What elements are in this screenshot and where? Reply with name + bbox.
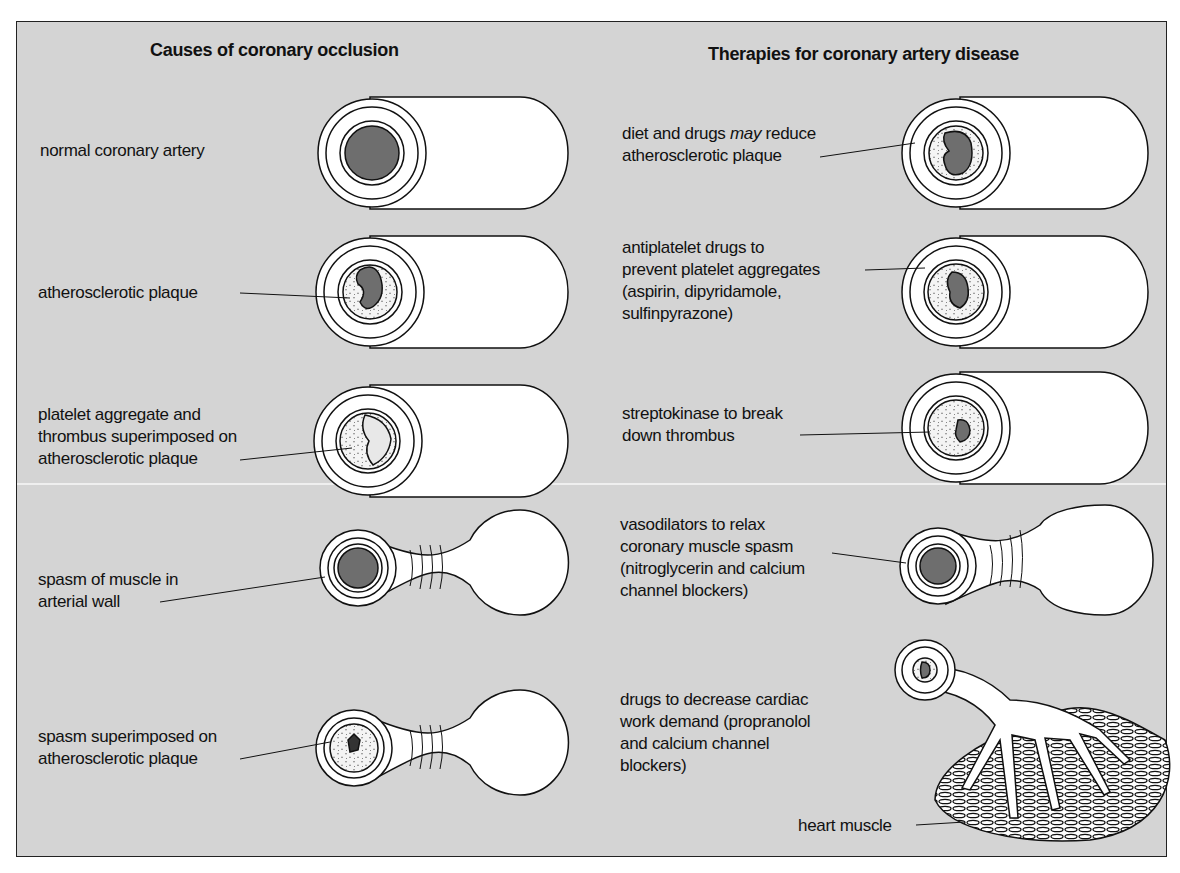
label-platelet-thrombus: platelet aggregate and thrombus superimp…	[38, 404, 237, 470]
label-atherosclerotic-plaque: atherosclerotic plaque	[38, 282, 198, 304]
label-diet-pre: diet and drugs	[622, 124, 730, 143]
label-diet-emphasis: may	[730, 124, 761, 143]
left-column-title: Causes of coronary occlusion	[150, 40, 399, 61]
spasm-artery-illustration	[320, 510, 568, 615]
normal-artery-illustration	[318, 97, 568, 209]
label-spasm-plaque: spasm superimposed on atherosclerotic pl…	[38, 726, 217, 770]
spasm-plaque-artery-illustration	[316, 690, 568, 795]
label-antiplatelet: antiplatelet drugs to prevent platelet a…	[622, 237, 820, 325]
antiplatelet-artery-illustration	[902, 236, 1148, 348]
reduced-plaque-artery-illustration	[902, 97, 1148, 209]
label-muscle-spasm: spasm of muscle in arterial wall	[38, 569, 178, 613]
label-streptokinase: streptokinase to break down thrombus	[622, 403, 783, 447]
label-vasodilators: vasodilators to relax coronary muscle sp…	[620, 514, 805, 602]
label-diet-drugs: diet and drugs may reduce atheroscleroti…	[622, 123, 816, 167]
vasodilator-artery-illustration	[900, 505, 1153, 615]
branching-artery-illustration	[895, 640, 1170, 841]
plaque-artery-illustration	[316, 236, 568, 348]
label-heart-muscle: heart muscle	[798, 815, 892, 837]
right-column-title: Therapies for coronary artery disease	[708, 44, 1019, 65]
label-normal-artery: normal coronary artery	[40, 140, 204, 162]
label-cardiac-work-drugs: drugs to decrease cardiac work demand (p…	[620, 689, 810, 777]
thrombus-artery-illustration	[314, 385, 568, 497]
streptokinase-artery-illustration	[902, 372, 1148, 484]
